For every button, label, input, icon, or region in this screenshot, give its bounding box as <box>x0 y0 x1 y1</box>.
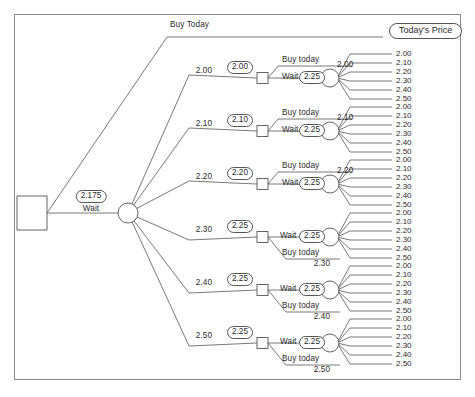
wait-label-3: Wait <box>280 232 296 240</box>
root-decision-node[interactable] <box>17 196 47 230</box>
outcome-value-5-1: 2.10 <box>396 324 412 332</box>
outcome-value-0-2: 2.20 <box>396 68 412 76</box>
buy-today-label-3: Buy today <box>282 249 319 257</box>
edge-outcome-3-1 <box>337 222 392 237</box>
outcome-value-1-3: 2.30 <box>396 130 412 138</box>
stage2-decision-node-1[interactable] <box>257 126 268 137</box>
edge-outcome-5-1 <box>337 328 392 343</box>
wait-label-2: Wait <box>282 179 298 187</box>
wait-label-5: Wait <box>280 338 296 346</box>
outcome-value-2-0: 2.00 <box>396 156 412 164</box>
outcome-value-2-3: 2.30 <box>396 183 412 191</box>
root-wait-label: Wait <box>83 205 99 213</box>
edge-outcome-2-2 <box>337 178 392 184</box>
wait-label-4: Wait <box>280 285 296 293</box>
edge-outcome-0-2 <box>337 72 392 78</box>
stage2-decision-node-4[interactable] <box>257 285 268 296</box>
outcome-value-4-1: 2.10 <box>396 271 412 279</box>
outcome-value-3-1: 2.10 <box>396 218 412 226</box>
wait-ev-oval-3: 2.25 <box>299 230 325 243</box>
buy-today-branch-label: Buy Today <box>170 21 209 29</box>
wait-ev-oval-0: 2.25 <box>299 71 325 84</box>
edge-outcome-1-2 <box>337 125 392 131</box>
outcome-value-0-4: 2.40 <box>396 86 412 94</box>
outcome-value-0-3: 2.30 <box>396 77 412 85</box>
chance-head-value-1: 2.10 <box>337 114 353 122</box>
stage2-ev-oval-0: 2.00 <box>227 61 253 74</box>
stage2-ev-oval-2: 2.20 <box>227 167 253 180</box>
outcome-value-4-3: 2.30 <box>396 289 412 297</box>
stage2-ev-oval-5: 2.25 <box>227 326 253 339</box>
buy-today-label-0: Buy today <box>282 56 319 64</box>
outcome-value-3-0: 2.00 <box>396 209 412 217</box>
branch-value-3: 2.30 <box>196 226 212 234</box>
branch-value-4: 2.40 <box>196 279 212 287</box>
branch-value-1: 2.10 <box>196 120 212 128</box>
outcome-value-5-0: 2.00 <box>396 315 412 323</box>
root-wait-ev-oval: 2.175 <box>76 190 107 203</box>
edge-outcome-5-2 <box>337 337 392 343</box>
stage2-decision-node-3[interactable] <box>257 232 268 243</box>
stage2-ev-oval-3: 2.25 <box>227 220 253 233</box>
wait-ev-oval-1: 2.25 <box>299 124 325 137</box>
wait-ev-oval-2: 2.25 <box>299 177 325 190</box>
outcome-value-1-1: 2.10 <box>396 112 412 120</box>
edge-outcome-4-1 <box>337 275 392 290</box>
stage2-ev-oval-4: 2.25 <box>227 273 253 286</box>
stage2-decision-node-2[interactable] <box>257 179 268 190</box>
outcome-value-5-5: 2.50 <box>396 360 412 368</box>
outcome-value-4-0: 2.00 <box>396 262 412 270</box>
branch-value-5: 2.50 <box>196 332 212 340</box>
outcome-value-5-3: 2.30 <box>396 342 412 350</box>
edge-outcome-1-3 <box>337 131 392 134</box>
buy-payoff-value-3: 2.30 <box>314 260 330 268</box>
edge-hub-branch-0 <box>128 75 257 213</box>
buy-payoff-value-5: 2.50 <box>314 366 330 374</box>
buy-today-label-4: Buy today <box>282 302 319 310</box>
outcome-value-4-4: 2.40 <box>396 298 412 306</box>
wait-label-1: Wait <box>282 126 298 134</box>
buy-payoff-value-4: 2.40 <box>314 313 330 321</box>
wait-ev-oval-5: 2.25 <box>299 336 325 349</box>
branch-value-2: 2.20 <box>196 173 212 181</box>
wait-ev-oval-4: 2.25 <box>299 283 325 296</box>
edge-outcome-4-3 <box>337 290 392 293</box>
outcome-value-5-4: 2.40 <box>396 351 412 359</box>
outcome-value-1-4: 2.40 <box>396 139 412 147</box>
outcome-value-2-1: 2.10 <box>396 165 412 173</box>
outcome-value-1-0: 2.00 <box>396 103 412 111</box>
outcome-value-5-2: 2.20 <box>396 333 412 341</box>
edge-outcome-5-3 <box>337 343 392 346</box>
root-chance-node[interactable] <box>118 203 138 223</box>
branch-value-0: 2.00 <box>196 67 212 75</box>
outcome-value-1-2: 2.20 <box>396 121 412 129</box>
chance-head-value-0: 2.00 <box>337 61 353 69</box>
stage2-decision-node-0[interactable] <box>257 73 268 84</box>
edge-outcome-3-2 <box>337 231 392 237</box>
wait-label-0: Wait <box>282 73 298 81</box>
buy-today-label-5: Buy today <box>282 355 319 363</box>
outcome-value-3-3: 2.30 <box>396 236 412 244</box>
edge-outcome-0-3 <box>337 78 392 81</box>
outcome-value-4-2: 2.20 <box>396 280 412 288</box>
outcome-value-3-2: 2.20 <box>396 227 412 235</box>
edge-outcome-4-2 <box>337 284 392 290</box>
stage2-ev-oval-1: 2.10 <box>227 114 253 127</box>
outcome-value-0-1: 2.10 <box>396 59 412 67</box>
outcome-value-3-4: 2.40 <box>396 245 412 253</box>
buy-today-label-1: Buy today <box>282 109 319 117</box>
outcome-value-2-2: 2.20 <box>396 174 412 182</box>
decision-tree-diagram: Buy TodayToday's Price2.175Wait2.002.00B… <box>0 0 475 397</box>
stage2-decision-node-5[interactable] <box>257 338 268 349</box>
buy-today-label-2: Buy today <box>282 162 319 170</box>
todays-price-node[interactable]: Today's Price <box>389 23 462 39</box>
outcome-value-0-0: 2.00 <box>396 50 412 58</box>
outcome-value-2-4: 2.40 <box>396 192 412 200</box>
edge-outcome-3-3 <box>337 237 392 240</box>
chance-head-value-2: 2.20 <box>337 167 353 175</box>
edge-outcome-2-3 <box>337 184 392 187</box>
